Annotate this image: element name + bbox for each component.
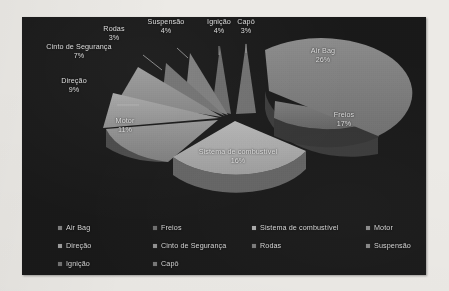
slice-label-rodas: Rodas 3% [92,25,136,42]
pie-chart-panel: Rodas 3% Suspensão 4% Ignição 4% Capô 3%… [22,17,426,275]
slice-label-capo: Capô 3% [226,18,266,35]
legend-row: Direção Cinto de Segurança Rodas Suspens… [22,239,426,254]
legend-label: Direção [66,241,91,250]
legend-label: Ignição [66,259,90,268]
legend-item-direcao[interactable]: Direção [58,239,91,252]
slice-label-sistema-combustivel: Sistema de combustível 16% [170,148,306,165]
legend-label: Freios [161,223,182,232]
legend-swatch-icon [153,244,157,248]
slice-label-air-bag: Air Bag 26% [299,47,347,64]
chart-legend: Air Bag Freios Sistema de combustível Mo… [22,213,426,275]
screenshot-root: Rodas 3% Suspensão 4% Ignição 4% Capô 3%… [0,0,449,291]
legend-label: Sistema de combustível [260,223,339,232]
legend-swatch-icon [252,244,256,248]
legend-row: Air Bag Freios Sistema de combustível Mo… [22,221,426,236]
leader-line-suspensao [177,48,188,58]
legend-item-freios[interactable]: Freios [153,221,182,234]
legend-swatch-icon [58,226,62,230]
slice-label-direcao: Direção 9% [48,77,100,94]
slice-capo [236,43,256,114]
slice-label-motor: Motor 11% [101,117,149,134]
legend-item-suspensao[interactable]: Suspensão [366,239,411,252]
legend-swatch-icon [153,262,157,266]
legend-swatch-icon [153,226,157,230]
legend-swatch-icon [366,226,370,230]
leader-line-rodas [143,55,162,70]
legend-item-rodas[interactable]: Rodas [252,239,281,252]
legend-label: Motor [374,223,393,232]
legend-label: Cinto de Segurança [161,241,226,250]
legend-swatch-icon [58,244,62,248]
slice-label-suspensao: Suspensão 4% [138,18,194,35]
slice-label-cinto-seguranca: Cinto de Segurança 7% [31,43,127,60]
legend-swatch-icon [252,226,256,230]
legend-item-air-bag[interactable]: Air Bag [58,221,90,234]
legend-swatch-icon [366,244,370,248]
legend-item-capo[interactable]: Capô [153,257,179,270]
legend-label: Air Bag [66,223,90,232]
legend-item-ignicao[interactable]: Ignição [58,257,90,270]
legend-swatch-icon [58,262,62,266]
legend-item-sistema-combustivel[interactable]: Sistema de combustível [252,221,339,234]
legend-item-motor[interactable]: Motor [366,221,393,234]
legend-label: Capô [161,259,179,268]
legend-row: Ignição Capô [22,257,426,272]
pie-plot-area: Rodas 3% Suspensão 4% Ignição 4% Capô 3%… [22,17,426,213]
legend-label: Suspensão [374,241,411,250]
slice-label-freios: Freios 17% [322,111,366,128]
legend-label: Rodas [260,241,281,250]
legend-item-cinto-seguranca[interactable]: Cinto de Segurança [153,239,226,252]
